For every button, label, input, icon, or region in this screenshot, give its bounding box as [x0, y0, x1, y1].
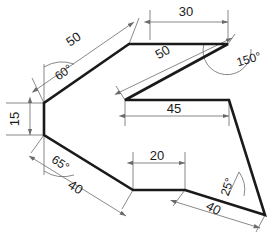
angle-label-65: 65° [49, 152, 72, 174]
dimension-label-top-30: 30 [179, 4, 193, 19]
dimension-label-left-15: 15 [7, 112, 22, 126]
dimension-lower-left-40 [31, 135, 133, 216]
angle-label-25: 25° [218, 176, 237, 198]
dimension-label-bottom-20: 20 [150, 148, 164, 163]
dimension-label-inner-45: 45 [167, 101, 181, 116]
dimension-label-upper-left-50: 50 [63, 29, 83, 50]
technical-drawing-canvas: 30 50 50 15 45 20 40 40 60° 150° 65° 25° [0, 0, 271, 251]
cad-drawing-svg: 30 50 50 15 45 20 40 40 60° 150° 65° 25° [0, 0, 271, 251]
angle-label-150: 150° [235, 49, 263, 69]
